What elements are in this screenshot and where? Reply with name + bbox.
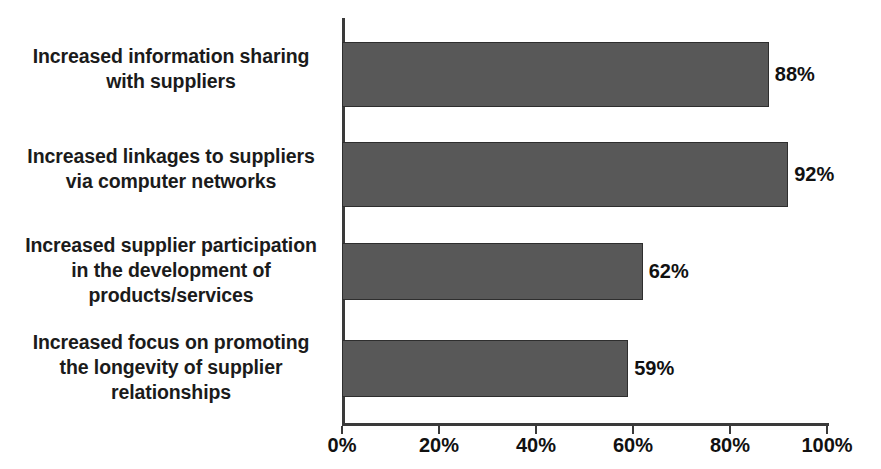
tick-mark-80 [729,426,731,434]
category-label-2: Increased linkages to suppliers via comp… [8,144,334,194]
bar-value-label-2: 92% [794,163,834,186]
bar-value-label-3: 62% [649,260,689,283]
bar-3 [342,243,643,300]
bar-2 [342,142,788,207]
tick-label-40: 40% [516,434,556,457]
tick-label-60: 60% [613,434,653,457]
tick-label-100: 100% [801,434,852,457]
tick-label-80: 80% [710,434,750,457]
tick-mark-20 [438,426,440,434]
tick-mark-100 [826,426,828,434]
tick-label-0: 0% [328,434,357,457]
tick-label-20: 20% [419,434,459,457]
category-label-3: Increased supplier participation in the … [8,233,334,308]
category-label-4: Increased focus on promoting the longevi… [8,330,334,405]
bar-chart: Increased information sharing with suppl… [0,0,881,469]
bar-1 [342,42,769,107]
bar-4 [342,340,628,397]
category-label-1: Increased information sharing with suppl… [8,44,334,94]
tick-mark-60 [632,426,634,434]
bar-value-label-1: 88% [775,63,815,86]
bar-value-label-4: 59% [634,357,674,380]
value-axis-line [342,423,829,426]
tick-mark-40 [535,426,537,434]
tick-mark-0 [341,426,343,434]
